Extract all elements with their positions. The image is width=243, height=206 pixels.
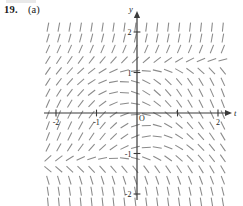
slope-segment [135, 23, 136, 32]
slope-segment [100, 56, 106, 63]
slope-segment [187, 155, 193, 161]
slope-segment [56, 89, 61, 97]
slope-segment [102, 198, 103, 206]
slope-segment [154, 57, 161, 63]
slope-segment [111, 57, 117, 64]
slope-segment [80, 187, 81, 196]
slope-segment [200, 23, 201, 32]
slope-segment [210, 122, 214, 130]
slope-segment [47, 187, 48, 196]
slope-segment [211, 34, 213, 43]
slope-segment [102, 187, 104, 196]
slope-segment [164, 57, 171, 62]
slope-segment [198, 155, 204, 162]
slope-segment [91, 34, 93, 43]
slope-segment [80, 34, 82, 43]
slope-segment [100, 122, 106, 129]
slope-segment [164, 69, 172, 72]
slope-segment [46, 132, 49, 140]
slope-segment [176, 100, 181, 107]
slope-segment [56, 56, 61, 64]
slope-segment [68, 132, 72, 140]
slope-segment [179, 23, 180, 32]
slope-segment [47, 176, 50, 185]
slope-segment [135, 198, 136, 206]
slope-segment [222, 34, 224, 43]
slope-segment [165, 89, 171, 96]
slope-segment [79, 176, 82, 185]
slope-segment [112, 34, 114, 43]
slope-segment [177, 89, 182, 96]
slope-segment [210, 111, 214, 119]
slope-segment [210, 89, 214, 97]
slope-segment [123, 34, 125, 43]
slope-segment [221, 99, 224, 107]
x-tick-label: -2 [53, 118, 60, 127]
slope-segment [198, 68, 205, 74]
slope-segment [156, 187, 158, 196]
slope-segment [131, 146, 140, 148]
slope-segment [46, 78, 51, 86]
slope-segment [168, 23, 169, 32]
slope-segment [178, 176, 181, 184]
slope-segment [89, 56, 95, 63]
slope-segment [209, 144, 215, 151]
slope-segment [187, 133, 194, 139]
slope-segment [187, 78, 192, 85]
slope-segment [46, 110, 49, 118]
slope-segment [199, 100, 203, 108]
slope-segment [79, 45, 83, 53]
slope-segment [112, 176, 115, 185]
figure-container: 19. (a) -2-1221-1-2 t y O [0, 0, 243, 206]
slope-segment [109, 81, 118, 83]
origin-label: O [139, 114, 145, 123]
slope-segment [176, 123, 183, 129]
slope-segment [132, 57, 139, 63]
slope-segment [78, 89, 84, 96]
slope-segment [99, 101, 106, 106]
slope-segment [167, 34, 169, 43]
slope-segment [56, 67, 61, 74]
slope-segment [166, 166, 171, 173]
slope-segment [221, 176, 224, 184]
slope-segment [211, 198, 212, 206]
slope-segment [221, 89, 224, 97]
slope-segment [156, 176, 159, 184]
slope-segment [120, 93, 129, 94]
slope-segment [131, 70, 140, 71]
slope-segment [157, 198, 158, 206]
slope-segment [89, 100, 95, 106]
slope-segment [80, 23, 81, 32]
slope-segment [109, 92, 118, 94]
slope-segment [199, 176, 202, 184]
slope-segment [167, 176, 170, 184]
slope-segment [210, 165, 215, 173]
slope-segment [102, 23, 103, 32]
slope-segment [122, 166, 128, 173]
slope-segment [77, 156, 85, 160]
slope-segment [178, 187, 180, 196]
slope-segment [80, 198, 81, 206]
slope-segment [45, 67, 50, 74]
slope-segment [99, 111, 105, 117]
slope-segment [68, 45, 72, 53]
slope-segment [188, 111, 193, 118]
slope-segment [176, 155, 183, 161]
slope-segment [199, 165, 204, 173]
slope-segment [67, 78, 73, 85]
slope-segment [124, 23, 125, 32]
slope-segment [165, 100, 171, 107]
slope-segment [144, 166, 149, 173]
slope-segment [131, 91, 140, 94]
slope-segment [113, 187, 115, 196]
slope-segment [112, 45, 116, 53]
slope-segment [77, 79, 84, 85]
slope-segment [210, 78, 214, 86]
slope-segment [220, 144, 225, 151]
slope-segment [89, 144, 95, 151]
slope-field-segments [44, 23, 227, 206]
slope-segment [99, 144, 106, 150]
slope-segment [56, 78, 61, 85]
slope-segment [46, 45, 50, 53]
slope-segment [91, 187, 92, 196]
